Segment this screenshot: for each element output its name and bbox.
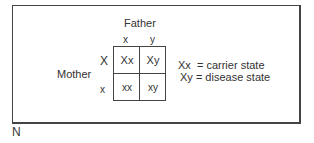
father-allele-y: y [150, 34, 155, 45]
father-allele-x: x [123, 34, 128, 45]
legend-disease: Xy = disease state [180, 72, 270, 83]
father-label: Father [124, 18, 156, 29]
cell-Xx: Xx [114, 47, 140, 73]
mother-allele-X: X [100, 56, 108, 67]
figure-letter: N [12, 127, 21, 138]
cell-xy: xy [140, 74, 166, 100]
mother-label: Mother [57, 69, 91, 80]
cell-xx: xx [114, 74, 140, 100]
mother-allele-x: x [100, 84, 105, 95]
punnett-square: Xx Xy xx xy [113, 46, 166, 101]
cell-Xy: Xy [140, 47, 166, 73]
legend-carrier: Xx = carrier state [178, 60, 265, 71]
